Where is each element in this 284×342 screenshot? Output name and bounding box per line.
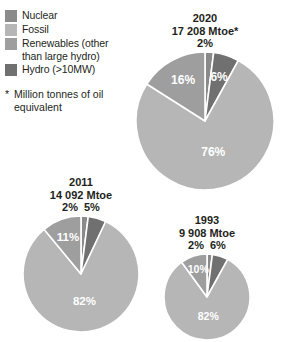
- legend-swatch-renewables: [5, 38, 17, 50]
- pie-svg-2011: 82%11%: [21, 214, 141, 334]
- pie-slice-label: 82%: [198, 310, 220, 322]
- legend-swatch-fossil: [5, 24, 17, 36]
- pie-chart-1993: 1993 9 908 Mtoe 2%6% 82%10%: [162, 214, 252, 342]
- pie-slice-label: 11%: [57, 231, 79, 243]
- footnote: * Million tonnes of oil equivalent: [5, 88, 125, 113]
- pie-title-2011: 2011: [21, 176, 141, 189]
- pie-slice-external-label: 6%: [210, 239, 226, 252]
- pie-external-labels-1993: 2%6%: [162, 239, 252, 252]
- pie-chart-2020: 2020 17 208 Mtoe* 2% 6%76%16%: [134, 12, 276, 192]
- legend: Nuclear Fossil Renewables (other than la…: [5, 9, 131, 77]
- pie-external-labels-2011: 2%5%: [21, 201, 141, 214]
- pie-slice-label: 6%: [210, 69, 228, 83]
- legend-swatch-nuclear: [5, 10, 17, 22]
- pie-slice-label: 82%: [73, 294, 96, 306]
- legend-label-fossil: Fossil: [22, 23, 49, 36]
- pie-subtitle-2020: 17 208 Mtoe*: [134, 25, 276, 38]
- pie-slice-label: 10%: [188, 262, 210, 274]
- pie-slice-external-label: 5%: [84, 201, 100, 214]
- legend-item-fossil: Fossil: [5, 23, 131, 36]
- pie-slice-label: 16%: [171, 73, 195, 87]
- pie-subtitle-1993: 9 908 Mtoe: [162, 227, 252, 240]
- pie-subtitle-2011: 14 092 Mtoe: [21, 189, 141, 202]
- legend-item-nuclear: Nuclear: [5, 9, 131, 22]
- legend-label-hydro: Hydro (>10MW): [22, 63, 95, 76]
- pie-svg-2020: 6%76%16%: [134, 50, 276, 192]
- pie-chart-2011: 2011 14 092 Mtoe 2%5% 82%11%: [21, 176, 141, 334]
- legend-swatch-hydro: [5, 64, 17, 76]
- pie-slice-external-label: 2%: [197, 37, 213, 50]
- legend-label-renewables: Renewables (other than large hydro): [22, 37, 108, 62]
- legend-item-hydro: Hydro (>10MW): [5, 63, 131, 76]
- footnote-marker: *: [5, 88, 14, 113]
- legend-label-nuclear: Nuclear: [22, 9, 57, 22]
- pie-svg-1993: 82%10%: [162, 252, 252, 342]
- legend-label-renewables-line2: than large hydro): [22, 50, 108, 63]
- pie-title-2020: 2020: [134, 12, 276, 25]
- legend-item-renewables: Renewables (other than large hydro): [5, 37, 131, 62]
- footnote-text: Million tonnes of oil equivalent: [14, 88, 125, 113]
- pie-slice-label: 76%: [201, 145, 225, 159]
- pie-external-labels-2020: 2%: [134, 37, 276, 50]
- legend-label-renewables-line1: Renewables (other: [22, 37, 108, 49]
- pie-title-1993: 1993: [162, 214, 252, 227]
- pie-slice-external-label: 2%: [188, 239, 204, 252]
- pie-slice-external-label: 2%: [62, 201, 78, 214]
